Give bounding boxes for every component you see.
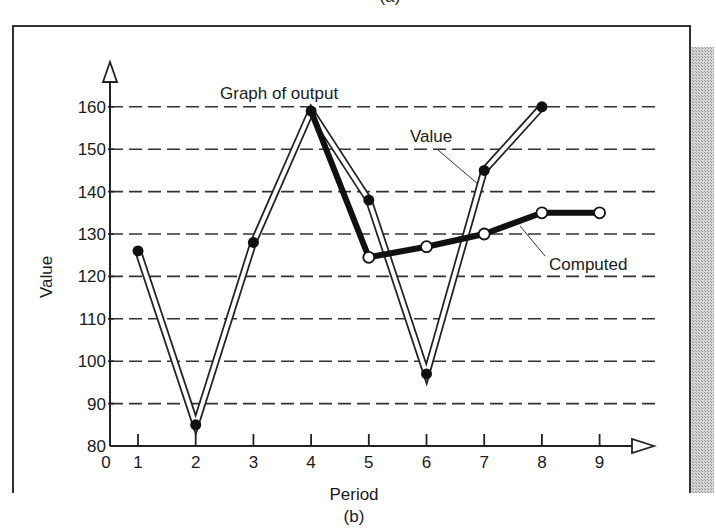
value-marker — [363, 195, 374, 206]
computed-marker — [536, 207, 547, 218]
y-tick-label: 120 — [78, 267, 106, 286]
x-axis-arrow-icon — [632, 439, 654, 453]
value-marker — [479, 165, 490, 176]
x-tick-label: 3 — [249, 453, 258, 472]
y-tick-label: 140 — [78, 183, 106, 202]
computed-marker — [421, 241, 432, 252]
y-axis-arrow-icon — [103, 62, 117, 82]
computed-marker — [363, 252, 374, 263]
y-axis-title: Value — [37, 256, 56, 298]
y-tick-label: 80 — [87, 437, 106, 456]
series-computed — [311, 111, 605, 263]
figure: (a) 12345678908090100110120130140150160 … — [0, 0, 716, 530]
value-annotation: Value — [410, 127, 452, 146]
figure-caption: (b) — [344, 507, 365, 526]
y-tick-label: 160 — [78, 98, 106, 117]
y-tick-label: 150 — [78, 140, 106, 159]
x-tick-label: 6 — [422, 453, 431, 472]
x-tick-label: 4 — [306, 453, 315, 472]
y-tick-label: 130 — [78, 225, 106, 244]
x-tick-label: 9 — [595, 453, 604, 472]
x-tick-label: 8 — [537, 453, 546, 472]
value-line-inner — [138, 107, 542, 425]
computed-annotation: Computed — [549, 255, 627, 274]
top-caption: (a) — [380, 0, 401, 6]
computed-marker — [594, 207, 605, 218]
y-tick-label: 100 — [78, 352, 106, 371]
frame-shadow — [691, 47, 714, 493]
value-marker — [190, 419, 201, 430]
computed-marker — [479, 229, 490, 240]
value-marker — [421, 368, 432, 379]
x-tick-label: 1 — [133, 453, 142, 472]
y-tick-label: 90 — [87, 395, 106, 414]
series-value — [133, 101, 548, 430]
x-tick-label: 2 — [191, 453, 200, 472]
value-marker — [248, 237, 259, 248]
value-marker — [133, 245, 144, 256]
x-tick-label: 5 — [364, 453, 373, 472]
y-tick-label: 110 — [79, 310, 106, 329]
line-chart: (a) 12345678908090100110120130140150160 … — [0, 0, 716, 530]
x-axis-title: Period — [329, 485, 378, 504]
value-leader-line — [438, 150, 478, 184]
x-tick-label: 7 — [479, 453, 488, 472]
computed-leader-line — [520, 226, 545, 256]
value-marker — [536, 101, 547, 112]
chart-title: Graph of output — [220, 84, 338, 103]
